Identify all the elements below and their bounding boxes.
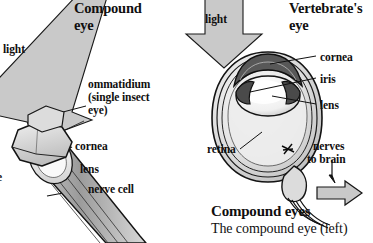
vertebrate-eye-title-line2: eye <box>289 18 309 33</box>
ommatidium-label-line2: (single insect <box>88 92 150 104</box>
ommatidium-part-cornea: cornea <box>75 141 108 153</box>
nerves-to-brain-arrow-graphic <box>317 160 362 205</box>
compound-eye-title: Compound <box>74 1 142 16</box>
vertebrate-eye-title: Vertebrate's <box>289 1 363 16</box>
left-light-label: light <box>3 44 25 56</box>
compound-eye-title-line2: eye <box>74 18 94 33</box>
ommatidium-label-line3: eye) <box>88 105 107 117</box>
nerves-to-brain-label-line1: nerves <box>313 141 344 153</box>
ommatidium-label-line1: ommatidium <box>88 79 150 91</box>
clipped-edge-label: e <box>0 172 2 184</box>
right-light-label: light <box>205 14 227 26</box>
ommatidium-part-lens: lens <box>80 164 99 176</box>
vertebrate-part-retina: retina <box>207 144 236 156</box>
nerves-to-brain-label-line2: to brain <box>307 154 346 166</box>
vertebrate-part-cornea: cornea <box>320 52 353 64</box>
caption-body: The compound eye (left) <box>211 222 347 236</box>
ommatidium-graphic <box>12 106 146 243</box>
diagram-graphics <box>0 0 373 243</box>
caption-heading: Compound eyes <box>211 204 311 219</box>
ommatidium-part-nerve-cell: nerve cell <box>88 184 134 196</box>
vertebrate-part-iris: iris <box>320 74 336 86</box>
figure-canvas: Compound eye light ommatidium (single in… <box>0 0 373 243</box>
vertebrate-part-lens: lens <box>320 100 339 112</box>
